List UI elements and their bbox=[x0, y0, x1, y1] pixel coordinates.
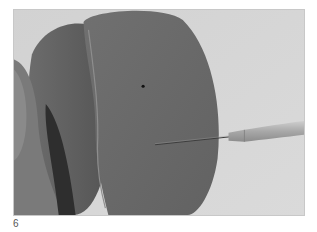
photo-illustration bbox=[14, 10, 304, 215]
object-disc bbox=[84, 11, 219, 215]
figure-number: 6 bbox=[13, 218, 19, 230]
figure-photo bbox=[13, 9, 305, 216]
marker-dot bbox=[142, 85, 145, 88]
